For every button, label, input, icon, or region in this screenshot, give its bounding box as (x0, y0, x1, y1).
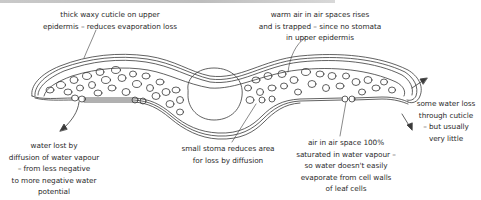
stoma-leader-line (232, 104, 256, 142)
label-line: of leaf cells (288, 183, 404, 195)
leader-lines (84, 30, 346, 142)
label-line: air in air space 100% (288, 137, 404, 149)
label-line: warm air in air spaces rises (240, 9, 400, 21)
label-line: evaporate from cell walls (288, 172, 404, 184)
label-line: water lost by (2, 140, 106, 152)
label-small-stoma: small stoma reduces area for loss by dif… (172, 143, 284, 166)
label-line: so water doesn't easily (288, 160, 404, 172)
label-line: in upper epidermis (240, 32, 400, 44)
label-line: and is trapped – since no stomata (240, 21, 400, 33)
stomata (72, 95, 356, 104)
lower-epidermis (32, 96, 408, 139)
label-line: epidermis – reduces evaporation loss (20, 21, 200, 33)
label-line: small stoma reduces area (172, 143, 284, 155)
air-space-leader-line (340, 102, 346, 136)
cuticle-loss-arrowhead-up (420, 78, 427, 84)
label-line: diffusion of water vapour (2, 152, 106, 164)
label-line: potential (2, 186, 106, 198)
label-air-space-saturated: air in air space 100% saturated in water… (288, 137, 404, 195)
label-line: some water loss (408, 98, 481, 110)
water-loss-arrow (64, 102, 79, 128)
water-loss-arrowhead (60, 124, 67, 131)
label-line: to more negative water (2, 175, 106, 187)
label-line: thick waxy cuticle on upper (20, 9, 200, 21)
label-line: for loss by diffusion (172, 155, 284, 167)
label-line: saturated in water vapour – (288, 149, 404, 161)
label-line: through cuticle (408, 110, 481, 122)
cuticle-leader-line (84, 30, 96, 58)
midrib-vascular-bundle (188, 68, 242, 120)
label-line: – but usually (408, 121, 481, 133)
label-warm-air-trapped: warm air in air spaces rises and is trap… (240, 9, 400, 44)
label-thick-waxy-cuticle: thick waxy cuticle on upper epidermis – … (20, 9, 200, 32)
label-line: very little (408, 133, 481, 145)
label-water-lost-by-diffusion: water lost by diffusion of water vapour … (2, 140, 106, 198)
label-line: – from less negative (2, 163, 106, 175)
label-some-water-loss-cuticle: some water loss through cuticle – but us… (408, 98, 481, 144)
